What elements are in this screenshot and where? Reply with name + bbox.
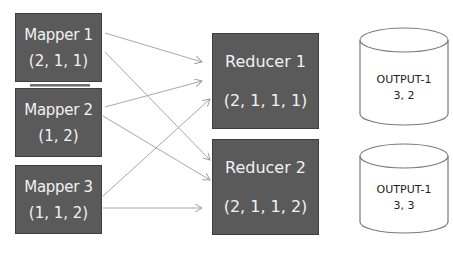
output-1-values: 3, 2 xyxy=(359,88,449,104)
arrow-m2-r1 xyxy=(105,81,202,107)
arrow-m1-r1 xyxy=(105,33,202,62)
arrows-and-cylinders xyxy=(0,0,453,254)
output-2-text: OUTPUT-1 3, 3 xyxy=(359,182,449,214)
arrow-m1-r2 xyxy=(105,52,210,160)
output-1-text: OUTPUT-1 3, 2 xyxy=(359,72,449,104)
arrow-m3-r1 xyxy=(103,99,210,196)
output-1-label: OUTPUT-1 xyxy=(359,72,449,88)
output-2-label: OUTPUT-1 xyxy=(359,182,449,198)
output-2-values: 3, 3 xyxy=(359,198,449,214)
